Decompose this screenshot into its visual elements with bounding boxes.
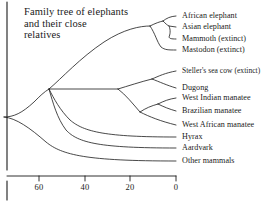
- branch-stellers-sea-cow: [152, 71, 176, 79]
- branch-other-mammals: [4, 117, 176, 161]
- branch-mammoth: [169, 26, 176, 39]
- tip-label-mastodon: Mastodon (extinct): [182, 45, 245, 54]
- branch-west-indian-manatee: [158, 98, 176, 104]
- tip-label-west-african-manatee: West African manatee: [182, 120, 254, 129]
- tip-label-brazilian-manatee: Brazilian manatee: [182, 106, 242, 115]
- branch-hyrax: [49, 89, 176, 137]
- figure-title-line-3: relatives: [24, 29, 154, 41]
- tip-label-african-elephant: African elephant: [182, 11, 237, 20]
- branch-manatee-pair-stem: [140, 104, 158, 112]
- figure-title-line-1: Family tree of elephants: [24, 6, 154, 18]
- tip-label-asian-elephant: Asian elephant: [182, 22, 231, 31]
- branch-west-african-manatee: [140, 112, 176, 125]
- tip-label-mammoth: Mammoth (extinct): [182, 34, 246, 43]
- branch-brazilian-manatee: [158, 104, 176, 111]
- tip-label-hyrax: Hyrax: [182, 132, 202, 141]
- branch-root-upper: [4, 89, 49, 117]
- tip-label-stellers-sea-cow: Steller's sea cow (extinct): [182, 66, 260, 75]
- branch-dugongidae-stem: [118, 79, 152, 89]
- branch-trichechidae-stem: [118, 89, 140, 112]
- axis-tick-label-20: 20: [126, 182, 135, 192]
- figure-title: Family tree of elephants and their close…: [24, 6, 154, 41]
- figure-title-line-2: and their close: [24, 18, 154, 30]
- axis-tick-label-60: 60: [35, 182, 44, 192]
- branch-elephas-mammuthus-stem: [163, 21, 176, 27]
- phylogenetic-tree-figure: Family tree of elephants and their close…: [0, 0, 273, 202]
- tip-label-west-indian-manatee: West Indian manatee: [182, 93, 251, 102]
- tip-label-other-mammals: Other mammals: [182, 156, 235, 165]
- axis-tick-label-40: 40: [81, 182, 90, 192]
- tip-label-dugong: Dugong: [182, 83, 208, 92]
- branch-african-elephant: [163, 16, 176, 21]
- branch-dugong: [152, 79, 176, 88]
- axis-tick-label-0: 0: [174, 182, 178, 192]
- tip-label-aardvark: Aardvark: [182, 143, 213, 152]
